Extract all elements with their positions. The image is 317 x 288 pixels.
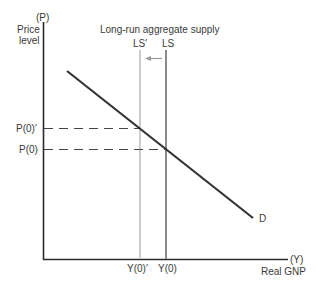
diagram-title: Long-run aggregate supply: [100, 24, 220, 35]
y-axis-label-line1: Price: [17, 24, 40, 35]
y-axis-label-line2: level: [19, 35, 40, 46]
x-axis-symbol: (Y): [290, 254, 303, 265]
p0-tick-label: P(0): [19, 144, 38, 155]
y-axis-symbol: (P): [36, 12, 49, 23]
ls-label: LS: [162, 38, 174, 49]
x-axis-label: Real GNP: [261, 266, 306, 277]
y0-tick-label: Y(0): [158, 263, 177, 274]
diagram-canvas: [0, 0, 317, 288]
demand-curve: [67, 71, 253, 218]
ls-prime-label: LS′: [133, 38, 147, 49]
p0-prime-tick-label: P(0)′: [16, 123, 37, 134]
demand-label: D: [259, 213, 266, 224]
y0-prime-tick-label: Y(0)′: [127, 263, 148, 274]
shift-arrow-icon: [145, 56, 162, 61]
